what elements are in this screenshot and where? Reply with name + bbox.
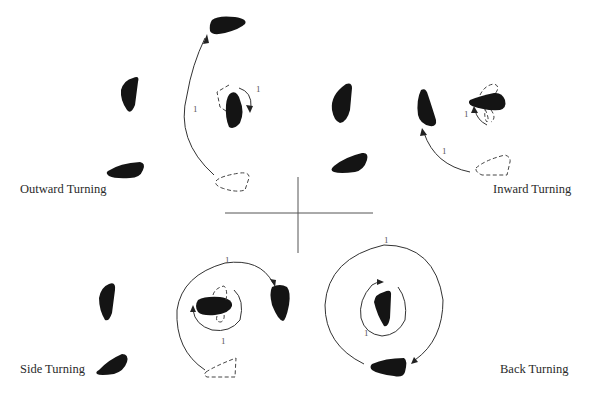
arrowhead-icon — [190, 305, 196, 312]
previous-position-outline — [476, 155, 510, 175]
footprint-shape — [196, 297, 232, 315]
arrowhead-icon — [270, 279, 276, 287]
footprint-shape — [99, 283, 115, 320]
side-turning-figure: 1 1 — [96, 255, 289, 377]
arrowhead-icon — [246, 105, 253, 113]
caption-side-turning: Side Turning — [20, 362, 85, 377]
step-count-label: 1 — [364, 328, 369, 338]
step-count-label: 1 — [442, 146, 447, 156]
step-count-label: 1 — [464, 109, 469, 119]
footprint-shape — [226, 92, 243, 128]
step-count-label: 1 — [221, 336, 226, 346]
previous-position-outline — [485, 109, 494, 122]
quadrant-divider-cross — [225, 177, 373, 253]
arrowhead-icon — [203, 34, 209, 44]
arrowhead-icon — [420, 128, 427, 136]
step-count-label: 1 — [193, 104, 198, 114]
caption-inward-turning: Inward Turning — [493, 182, 571, 197]
step-count-label: 1 — [256, 84, 261, 94]
turning-path-arrow — [177, 262, 273, 370]
previous-position-outline — [216, 173, 249, 191]
footprint-shape — [107, 162, 144, 178]
footprint-shape — [271, 285, 290, 321]
footprint-shape — [96, 354, 127, 375]
previous-position-outline — [205, 358, 236, 377]
inward-turning-figure: 1 1 — [332, 84, 511, 176]
back-turning-figure: 1 1 — [325, 235, 443, 377]
footprint-shape — [417, 89, 436, 126]
footprint-shape — [371, 358, 407, 377]
step-count-label: 1 — [225, 255, 230, 265]
footprint-shape — [332, 153, 368, 173]
arrowhead-icon — [377, 279, 384, 285]
footprint-shape — [121, 77, 139, 112]
turning-path-arrow — [424, 133, 470, 172]
footprint-shape — [210, 16, 246, 34]
footprint-shape — [374, 291, 391, 327]
outward-turning-figure: 1 1 — [107, 16, 261, 191]
turning-path-arrow — [184, 38, 214, 175]
caption-back-turning: Back Turning — [500, 362, 568, 377]
caption-outward-turning: Outward Turning — [20, 182, 106, 197]
turning-diagram: 1 1 1 1 — [0, 0, 592, 398]
step-count-label: 1 — [384, 235, 389, 245]
footprint-shape — [332, 84, 352, 124]
